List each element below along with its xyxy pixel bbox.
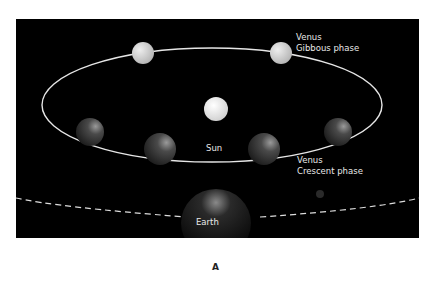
- crescent-label-1: Venus: [297, 155, 323, 165]
- venus-right-icon: [324, 118, 352, 146]
- sun-icon: [204, 97, 228, 121]
- venus-gibbous-right-icon: [270, 42, 292, 64]
- sun-label: Sun: [206, 143, 222, 153]
- crescent-label-2: Crescent phase: [297, 166, 363, 176]
- venus-left-icon: [76, 118, 104, 146]
- gibbous-label-1: Venus: [296, 32, 322, 42]
- earth-icon: [181, 189, 251, 238]
- venus-crescent-left-icon: [144, 133, 176, 165]
- figure-letter: A: [212, 262, 219, 272]
- moon-icon: [316, 190, 324, 198]
- venus-crescent-right-icon: [248, 133, 280, 165]
- diagram-panel: Sun Earth Venus Gibbous phase Venus Cres…: [16, 19, 419, 238]
- venus-gibbous-left-icon: [132, 42, 154, 64]
- gibbous-label-2: Gibbous phase: [296, 43, 359, 53]
- earth-label: Earth: [196, 217, 219, 227]
